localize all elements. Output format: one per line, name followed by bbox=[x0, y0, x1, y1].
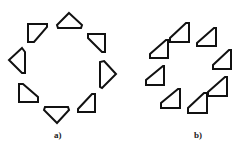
truncated-triangle-shape bbox=[197, 28, 216, 46]
truncated-triangle-shape bbox=[208, 77, 227, 96]
truncated-triangle-shape bbox=[19, 84, 38, 102]
truncated-triangle-shape bbox=[28, 24, 47, 42]
truncated-triangle-shape bbox=[57, 13, 82, 28]
truncated-triangle-shape bbox=[170, 23, 189, 42]
truncated-triangle-shape bbox=[161, 89, 180, 108]
panel-b-label: b) bbox=[194, 130, 202, 140]
truncated-triangle-shape bbox=[188, 93, 207, 113]
truncated-triangle-shape bbox=[150, 40, 168, 58]
panel-a-label: a) bbox=[54, 130, 62, 140]
truncated-triangle-shape bbox=[78, 94, 95, 112]
truncated-triangle-shape bbox=[44, 107, 69, 123]
truncated-triangle-shape bbox=[88, 34, 105, 52]
panel-a-shapes bbox=[9, 13, 116, 123]
truncated-triangle-shape bbox=[146, 66, 164, 85]
truncated-triangle-shape bbox=[100, 61, 116, 88]
truncated-triangle-shape bbox=[213, 50, 231, 69]
truncated-triangle-shape bbox=[9, 48, 25, 73]
panel-b-shapes bbox=[146, 23, 231, 113]
figure-canvas bbox=[0, 0, 239, 149]
